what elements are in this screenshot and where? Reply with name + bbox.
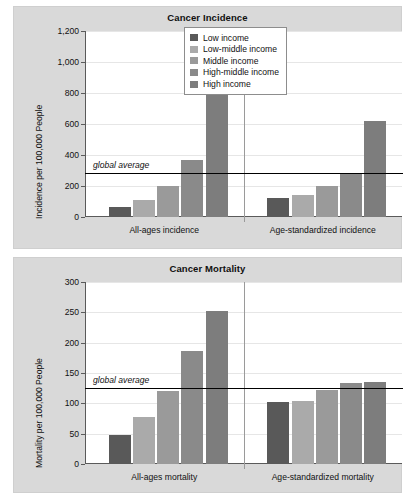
- legend-swatch-icon: [190, 69, 198, 76]
- legend-item: Low-middle income: [190, 44, 279, 56]
- legend-item-label: High income: [203, 80, 251, 89]
- global-average-line: [85, 388, 403, 390]
- bar: [316, 390, 338, 464]
- global-average-line: [85, 173, 403, 175]
- y-axis-tick-label: 200: [65, 181, 79, 191]
- bar: [181, 160, 203, 217]
- y-axis-tick-label: 250: [65, 307, 79, 317]
- x-axis-label: All-ages incidence: [129, 225, 199, 235]
- legend-item-label: Low-middle income: [203, 45, 277, 54]
- x-axis-label: Age-standardized incidence: [270, 225, 376, 235]
- bar: [157, 186, 179, 217]
- chart-panel-incidence: Cancer Incidence Incidence per 100,000 P…: [13, 6, 402, 249]
- legend-item-label: Low income: [203, 34, 249, 43]
- y-axis-line: [85, 31, 86, 217]
- y-axis-tick-label: 300: [65, 277, 79, 287]
- legend-item: High-middle income: [190, 67, 279, 79]
- global-average-label: global average: [93, 375, 149, 385]
- chart-title-mortality: Cancer Mortality: [14, 263, 401, 274]
- bar: [340, 383, 362, 464]
- y-axis-tick-label: 1,200: [57, 26, 79, 36]
- legend-swatch-icon: [190, 81, 198, 88]
- bar: [292, 195, 314, 217]
- y-axis-tick-label: 150: [65, 368, 79, 378]
- y-axis-tick-label: 1,000: [57, 57, 79, 67]
- bar: [157, 391, 179, 464]
- bar: [364, 121, 386, 217]
- bar: [133, 417, 155, 464]
- bar: [340, 174, 362, 217]
- y-axis-title-mortality: Mortality per 100,000 People: [34, 358, 44, 468]
- y-axis-tick: [81, 217, 85, 218]
- bar: [316, 186, 338, 217]
- y-axis-tick-label: 200: [65, 338, 79, 348]
- y-axis-line: [85, 282, 86, 464]
- group-separator: [244, 282, 245, 469]
- legend-item-label: Middle income: [203, 57, 258, 66]
- figure-root: Cancer Incidence Incidence per 100,000 P…: [0, 0, 415, 499]
- bar: [181, 351, 203, 464]
- y-axis-tick-label: 600: [65, 119, 79, 129]
- legend: Low incomeLow-middle incomeMiddle income…: [184, 27, 287, 95]
- legend-swatch-icon: [190, 46, 198, 53]
- bar: [267, 198, 289, 217]
- y-axis-tick-label: 50: [69, 429, 79, 439]
- plot-area-mortality: 050100150200250300All-ages mortalityAge-…: [85, 282, 402, 464]
- bar: [109, 435, 131, 464]
- chart-panel-mortality: Cancer Mortality Mortality per 100,000 P…: [13, 257, 402, 493]
- legend-item: High income: [190, 78, 279, 90]
- x-axis-label: Age-standardized mortality: [272, 472, 374, 482]
- global-average-label: global average: [93, 160, 149, 170]
- y-axis-tick-label: 0: [74, 212, 79, 222]
- legend-item-label: High-middle income: [203, 68, 279, 77]
- y-axis-tick-label: 100: [65, 398, 79, 408]
- legend-swatch-icon: [190, 57, 198, 64]
- bar: [364, 382, 386, 464]
- legend-swatch-icon: [190, 34, 198, 41]
- y-axis-tick-label: 0: [74, 459, 79, 469]
- legend-item: Low income: [190, 32, 279, 44]
- y-axis-tick-label: 800: [65, 88, 79, 98]
- bar: [109, 207, 131, 217]
- y-axis-tick-label: 400: [65, 150, 79, 160]
- bar: [133, 200, 155, 217]
- legend-item: Middle income: [190, 55, 279, 67]
- x-axis-label: All-ages mortality: [131, 472, 197, 482]
- chart-title-incidence: Cancer Incidence: [14, 12, 401, 23]
- bar: [292, 401, 314, 464]
- y-axis-title-incidence: Incidence per 100,000 People: [34, 105, 44, 219]
- bar: [267, 402, 289, 464]
- y-axis-tick: [81, 464, 85, 465]
